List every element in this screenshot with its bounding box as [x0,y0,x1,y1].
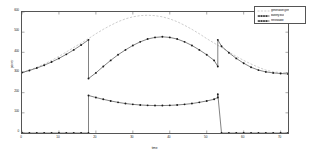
legend-swatch-renewable [257,19,270,23]
y-tick-label: 0 [5,130,19,133]
y-tick-label: 500 [5,29,19,32]
y-tick-label: 600 [5,9,19,12]
legend-label: generation gen [271,9,289,12]
x-tick-label: 70 [273,136,287,139]
y-tick-label: 100 [5,110,19,113]
chart-figure: power time 0100200300400500600 010203040… [0,0,309,158]
x-axis-label: time [0,146,309,150]
y-tick-label: 200 [5,90,19,93]
plot-canvas [22,12,288,133]
legend-swatch-battery [257,14,270,18]
x-tick-label: 40 [162,136,176,139]
x-tick-label: 50 [199,136,213,139]
x-tick-label: 60 [236,136,250,139]
chart-legend: generation gen battery bus renewable [254,6,306,24]
x-tick-label: 10 [51,136,65,139]
legend-item: renewable [257,18,304,23]
legend-label: battery bus [271,14,284,17]
x-tick-label: 0 [14,136,28,139]
y-axis-label: power [10,51,14,77]
legend-swatch-generation [257,9,270,13]
legend-label: renewable [271,19,284,22]
x-tick-label: 30 [125,136,139,139]
y-tick-label: 400 [5,50,19,53]
y-tick-label: 300 [5,70,19,73]
plot-area [21,11,289,134]
x-tick-label: 20 [88,136,102,139]
